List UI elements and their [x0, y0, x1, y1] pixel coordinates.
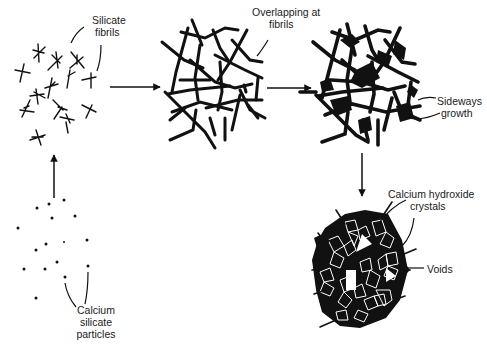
silicate-fibrils-label: Silicate fibrils [92, 14, 126, 38]
voids-label-line1: Voids [427, 263, 453, 275]
calcium-silicate-particles [17, 199, 90, 300]
sideways-growth-label-line1: Sideways [437, 95, 482, 107]
overlapping-label-line2: fibrils [252, 18, 320, 30]
calcium-hydroxide-label-line2: crystals [388, 200, 474, 212]
overlapping-label-line1: Overlapping at [252, 6, 320, 18]
calcium-silicate-label-line3: particles [76, 328, 115, 340]
particles-leader-lines [65, 272, 88, 307]
final-hydrated-structure [312, 202, 416, 328]
silicate-fibrils [15, 44, 96, 145]
calcium-hydroxide-label: Calcium hydroxide crystals [388, 188, 474, 212]
overlapping-fibrils-network [162, 20, 265, 148]
silicate-fibrils-label-line1: Silicate [92, 14, 126, 26]
voids-label: Voids [427, 263, 453, 275]
calcium-silicate-label: Calcium silicate particles [76, 304, 115, 340]
calcium-silicate-label-line2: silicate [76, 316, 115, 328]
sideways-growth-label-line2: growth [437, 107, 482, 119]
calcium-silicate-label-line1: Calcium [76, 304, 115, 316]
silicate-fibrils-label-line2: fibrils [92, 26, 126, 38]
overlapping-label: Overlapping at fibrils [252, 6, 320, 30]
sideways-growth-label: Sideways growth [437, 95, 482, 119]
calcium-hydroxide-label-line1: Calcium hydroxide [388, 188, 474, 200]
overlapping-leader-line [257, 40, 268, 56]
cement-hydration-diagram: Silicate fibrils Overlapping at fibrils … [0, 0, 487, 351]
